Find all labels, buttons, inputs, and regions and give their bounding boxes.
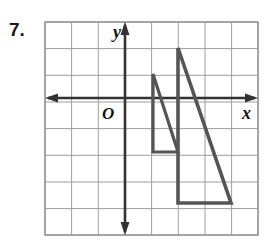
origin-label: O — [102, 104, 114, 123]
x-axis-label: x — [241, 103, 251, 123]
y-axis-label: y — [111, 22, 122, 42]
coordinate-plane-figure: y x O — [40, 16, 268, 242]
problem-number: 7. — [9, 19, 25, 41]
page-root: 7. — [0, 0, 275, 247]
coordinate-plane-svg: y x O — [40, 16, 268, 242]
